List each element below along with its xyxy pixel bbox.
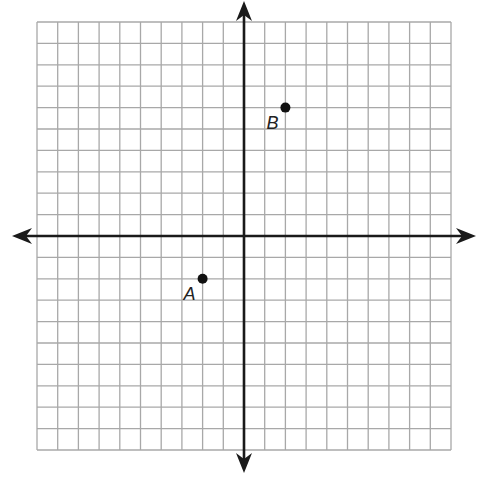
point-label-b: B — [266, 113, 278, 133]
axes — [12, 1, 476, 473]
point-b — [280, 103, 290, 113]
points: AB — [183, 103, 291, 304]
point-label-a: A — [183, 284, 196, 304]
point-a — [198, 274, 208, 284]
coordinate-plane: AB — [0, 0, 482, 478]
